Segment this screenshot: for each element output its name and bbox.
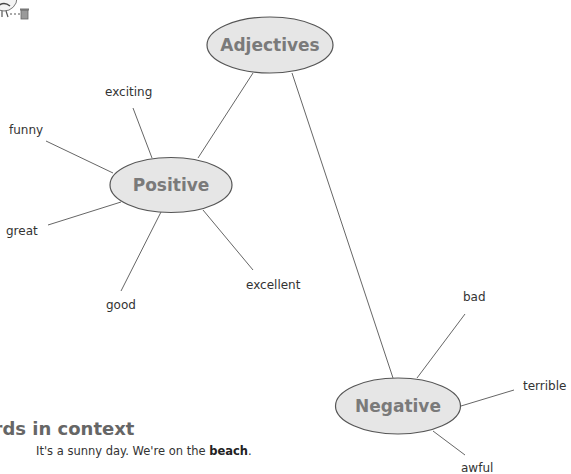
node-adjectives-label: Adjectives [220, 35, 319, 55]
node-adjectives: Adjectives [207, 17, 333, 73]
edge-positive-exciting [133, 108, 152, 158]
edge-negative-terrible [461, 390, 514, 406]
edge-negative-awful [433, 431, 465, 455]
node-negative-label: Negative [355, 396, 441, 416]
sentence-end: . [248, 444, 252, 458]
edge-positive-great [48, 202, 121, 225]
edge-positive-funny [46, 141, 113, 173]
leaf-funny: funny [9, 123, 43, 137]
node-positive: Positive [110, 158, 232, 213]
mind-map: Adjectives Positive Negative exciting fu… [0, 0, 571, 474]
leaf-awful: awful [461, 461, 493, 474]
node-positive-label: Positive [133, 175, 210, 195]
leaf-terrible: terrible [523, 379, 566, 393]
leaf-excellent: excellent [246, 278, 301, 292]
leaf-good: good [106, 298, 136, 312]
sentence-text: It's a sunny day. We're on the [36, 444, 209, 458]
node-negative: Negative [336, 378, 461, 434]
section-heading: Words in context [0, 418, 134, 439]
edge-positive-excellent [203, 210, 253, 270]
example-sentence: It's a sunny day. We're on the beach. [36, 444, 252, 458]
edge-positive-good [121, 212, 161, 291]
edge-adjectives-negative [292, 73, 393, 378]
leaf-exciting: exciting [105, 85, 152, 99]
edge-negative-bad [417, 314, 465, 378]
leaf-great: great [6, 224, 38, 238]
sentence-keyword: beach [209, 444, 248, 458]
leaf-bad: bad [463, 290, 486, 304]
edge-adjectives-positive [198, 73, 253, 158]
